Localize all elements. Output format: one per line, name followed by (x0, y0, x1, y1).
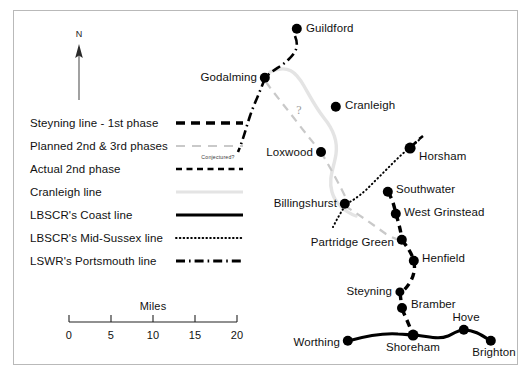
scale-tick-label-5: 5 (108, 329, 114, 341)
station-label: Loxwood (266, 147, 313, 159)
station-label: Godalming (200, 72, 257, 84)
station-label: Bramber (411, 299, 456, 311)
station-label: Guildford (306, 23, 354, 35)
station-label: Hove (452, 312, 479, 324)
station-label: Cranleigh (345, 100, 395, 112)
station-label: Brighton (472, 347, 516, 359)
station-label: Southwater (396, 184, 455, 196)
station-label: Henfield (422, 253, 465, 265)
station-label: Partridge Green (311, 237, 394, 249)
station-label: Shoreham (386, 342, 440, 354)
station-dot[interactable] (405, 143, 416, 154)
station-label: Horsham (419, 151, 466, 163)
station-label: Billingshurst (274, 198, 337, 210)
scale-bar-title: Miles (140, 300, 167, 312)
station-label: West Grinstead (404, 207, 484, 219)
station-dot[interactable] (408, 330, 419, 341)
map-figure: N Steyning line - 1st phase Planned 2nd … (0, 0, 532, 382)
station-dot[interactable] (397, 303, 407, 313)
scale-tick-label-10: 10 (147, 329, 160, 341)
scale-tick-label-15: 15 (189, 329, 202, 341)
station-label: Steyning (346, 286, 392, 298)
uncertainty-question-mark: ? (296, 103, 301, 118)
scale-tick-label-20: 20 (231, 329, 244, 341)
scale-tick-label-0: 0 (66, 329, 72, 341)
station-dot[interactable] (316, 147, 326, 157)
station-label: Worthing (293, 337, 340, 349)
